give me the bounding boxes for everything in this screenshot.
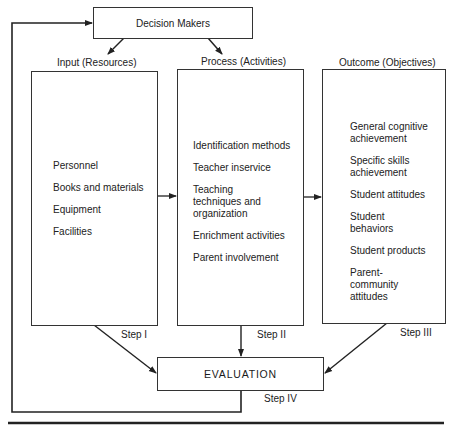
outcome-item: Parent-community attitudes bbox=[350, 267, 430, 303]
outcome-item: Student attitudes bbox=[350, 189, 430, 201]
arrow-decision-to-input bbox=[108, 38, 124, 54]
input-items: Personnel Books and materials Equipment … bbox=[53, 160, 144, 248]
process-items: Identification methods Teacher inservice… bbox=[193, 140, 301, 274]
process-item: Identification methods bbox=[193, 140, 301, 152]
step-1-label: Step I bbox=[121, 329, 147, 340]
outcome-item: Student behaviors bbox=[350, 211, 430, 235]
step-3-label: Step III bbox=[400, 327, 432, 338]
decision-makers-box: Decision Makers bbox=[93, 7, 253, 39]
step-4-label: Step IV bbox=[264, 393, 297, 404]
process-title: Process (Activities) bbox=[201, 56, 286, 67]
decision-makers-label: Decision Makers bbox=[136, 18, 210, 29]
input-item: Facilities bbox=[53, 226, 144, 238]
process-item: Teacher inservice bbox=[193, 162, 301, 174]
evaluation-box: EVALUATION bbox=[157, 357, 324, 391]
arrow-outcome-to-evaluation bbox=[325, 323, 387, 373]
outcome-items: General cognitive achievement Specific s… bbox=[350, 121, 430, 313]
outcome-item: Specific skills achievement bbox=[350, 155, 430, 179]
input-item: Personnel bbox=[53, 160, 144, 172]
input-title: Input (Resources) bbox=[57, 57, 136, 68]
outcome-title: Outcome (Objectives) bbox=[339, 57, 436, 68]
evaluation-label: EVALUATION bbox=[204, 368, 277, 380]
step-2-label: Step II bbox=[257, 329, 286, 340]
process-item: Teaching techniques and organization bbox=[193, 184, 283, 220]
input-item: Books and materials bbox=[53, 182, 144, 194]
outcome-item: General cognitive achievement bbox=[350, 121, 430, 145]
process-item: Parent involvement bbox=[193, 252, 301, 264]
outcome-item: Student products bbox=[350, 245, 430, 257]
arrow-decision-to-process bbox=[208, 38, 222, 54]
process-item: Enrichment activities bbox=[193, 230, 301, 242]
input-item: Equipment bbox=[53, 204, 144, 216]
